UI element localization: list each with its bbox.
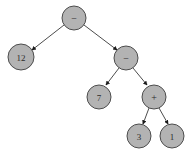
node-label: 1 [170,132,175,142]
node-label: 3 [137,132,142,142]
node-label: − [123,53,129,64]
tree-edge [106,68,119,85]
tree-node[interactable]: − [62,6,86,30]
tree-node[interactable]: 3 [127,124,151,148]
node-layer: −12−7+31 [8,6,184,148]
tree-edge [143,108,149,124]
tree-node[interactable]: + [142,85,166,109]
tree-edge [133,68,147,85]
tree-edge [84,25,117,50]
tree-node[interactable]: 7 [87,85,111,109]
expression-tree-diagram: −12−7+31 [0,0,192,155]
tree-edge [159,108,168,124]
node-label: 7 [97,93,102,103]
tree-node[interactable]: 1 [160,124,184,148]
node-label: + [151,92,157,103]
tree-node[interactable]: 12 [8,44,34,70]
node-label: − [71,13,77,24]
tree-node[interactable]: − [114,46,138,70]
tree-edge [32,25,64,50]
tree-svg-canvas: −12−7+31 [0,0,192,155]
node-label: 12 [17,53,26,63]
